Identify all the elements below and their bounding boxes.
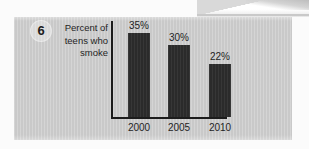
- screenshot-root: 6 Percent of teens who smoke 35% 30% 22%…: [0, 0, 309, 149]
- x-axis-line: [111, 117, 227, 119]
- y-axis-label-line-2: teens who: [36, 35, 108, 48]
- bar-2005: [168, 45, 190, 117]
- bar-2010: [209, 64, 231, 117]
- x-tick-label-2005: 2005: [162, 122, 196, 133]
- bar-value-2005: 30%: [162, 32, 196, 43]
- bar-chart: 35% 30% 22% 2000 2005 2010: [111, 17, 251, 140]
- page-corner-shadow: [246, 0, 309, 10]
- y-axis-line: [111, 21, 113, 119]
- page-corner-edge: [197, 14, 309, 16]
- y-axis-label: Percent of teens who smoke: [36, 22, 108, 60]
- bar-2000: [128, 33, 150, 117]
- y-axis-label-line-3: smoke: [36, 47, 108, 60]
- bar-value-2000: 35%: [122, 20, 156, 31]
- x-tick-label-2000: 2000: [122, 122, 156, 133]
- bar-value-2010: 22%: [203, 51, 237, 62]
- question-panel: 6 Percent of teens who smoke 35% 30% 22%…: [14, 17, 292, 140]
- x-tick-label-2010: 2010: [203, 122, 237, 133]
- y-axis-label-line-1: Percent of: [36, 22, 108, 35]
